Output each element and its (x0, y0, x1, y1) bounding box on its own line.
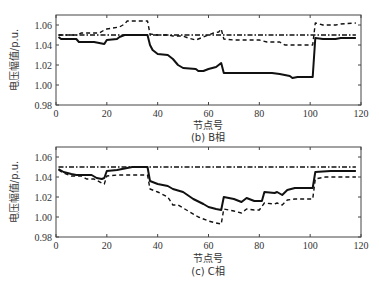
x-axis-title: 节点号 (193, 253, 223, 264)
chart-c-phase: 0.981.001.021.041.06 020406080100120 电压幅… (8, 147, 369, 277)
chart-b-phase: 0.981.001.021.041.06 020406080100120 电压幅… (8, 15, 369, 143)
y-tick-label: 1.00 (35, 212, 53, 223)
y-tick-label: 1.06 (35, 20, 53, 31)
x-tick-label: 60 (204, 240, 214, 251)
x-tick-label: 20 (102, 240, 112, 251)
y-axis-title: 电压幅值/p.u. (8, 29, 20, 91)
y-tick-label: 1.04 (35, 172, 53, 183)
y-axis-ticks: 0.981.001.021.041.06 (35, 152, 362, 243)
series-lines (59, 167, 356, 224)
x-axis-ticks: 020406080100120 (54, 15, 369, 119)
x-tick-label: 0 (54, 240, 59, 251)
y-tick-label: 1.06 (35, 152, 53, 163)
x-tick-label: 0 (54, 108, 59, 119)
y-tick-label: 0.98 (35, 232, 53, 243)
y-tick-label: 1.04 (35, 40, 53, 51)
series-lines (59, 21, 356, 78)
x-tick-label: 80 (254, 240, 264, 251)
x-tick-label: 40 (153, 240, 163, 251)
x-tick-label: 100 (303, 108, 318, 119)
chart-caption: (b) B相 (191, 131, 225, 143)
y-tick-label: 1.00 (35, 80, 53, 91)
x-tick-label: 40 (153, 108, 163, 119)
x-axis-ticks: 020406080100120 (54, 147, 369, 251)
y-tick-label: 1.02 (35, 60, 53, 71)
chart-caption: (c) C相 (191, 265, 224, 277)
x-tick-label: 60 (204, 108, 214, 119)
y-tick-label: 0.98 (35, 100, 53, 111)
y-axis-title: 电压幅值/p.u. (8, 161, 20, 223)
x-tick-label: 100 (303, 240, 318, 251)
solid-line-series (59, 35, 356, 78)
dashed-line-series (59, 21, 356, 45)
plot-area-frame (56, 147, 361, 237)
x-tick-label: 80 (254, 108, 264, 119)
y-axis-ticks: 0.981.001.021.041.06 (35, 20, 362, 111)
x-tick-label: 20 (102, 108, 112, 119)
figure: 0.981.001.021.041.06 020406080100120 电压幅… (0, 0, 379, 289)
solid-line-series (59, 167, 356, 210)
x-axis-title: 节点号 (193, 120, 223, 131)
x-tick-label: 120 (354, 240, 369, 251)
y-tick-label: 1.02 (35, 192, 53, 203)
x-tick-label: 120 (354, 108, 369, 119)
